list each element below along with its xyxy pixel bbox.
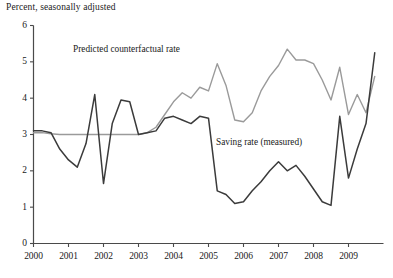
x-tick-2000: 2000 [14,251,54,261]
y-tick-3: 3 [9,129,27,139]
x-tick-2002: 2002 [84,251,124,261]
x-tick-2003: 2003 [119,251,159,261]
x-tick-2009: 2009 [329,251,369,261]
series-label-saving-rate-measured: Saving rate (measured) [216,137,302,148]
x-tick-2006: 2006 [224,251,264,261]
x-tick-2008: 2008 [294,251,334,261]
series-line-predicted-counterfactual-rate [34,49,375,134]
x-tick-2004: 2004 [154,251,194,261]
x-tick-2005: 2005 [189,251,229,261]
series-label-predicted-counterfactual-rate: Predicted counterfactual rate [73,44,180,55]
y-tick-5: 5 [9,56,27,66]
x-tick-2001: 2001 [49,251,89,261]
y-tick-1: 1 [9,202,27,212]
x-tick-2007: 2007 [259,251,299,261]
series-line-saving-rate-measured [34,53,375,206]
y-tick-4: 4 [9,93,27,103]
y-tick-6: 6 [9,20,27,30]
y-tick-0: 0 [9,238,27,248]
plot-area [0,0,393,278]
savings-rate-chart: Percent, seasonally adjusted 0123456 200… [0,0,393,278]
y-tick-2: 2 [9,165,27,175]
